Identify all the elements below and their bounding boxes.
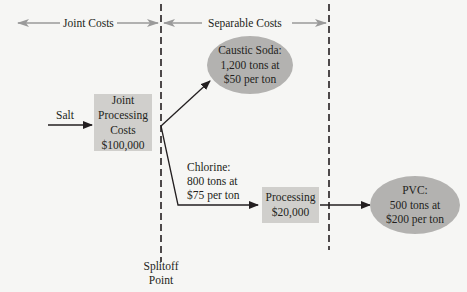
chlorine-label: Chlorine: 800 tons at $75 per ton (187, 160, 239, 202)
chlorine-line-2: 800 tons at (187, 174, 239, 188)
pvc-line-2: 500 tons at (390, 198, 440, 213)
joint-line-1: Joint (112, 93, 134, 108)
joint-processing-box: Joint Processing Costs $100,000 (94, 94, 152, 151)
pvc-line-1: PVC: (402, 183, 428, 198)
joint-line-3: Costs (110, 123, 136, 138)
caustic-soda-line-1: Caustic Soda: (218, 43, 282, 58)
caustic-soda-line-3: $50 per ton (224, 72, 276, 87)
splitoff-line-1: Splitoff (141, 259, 181, 273)
joint-line-2: Processing (98, 108, 148, 123)
joint-line-4: $100,000 (101, 138, 144, 153)
separable-costs-header: Separable Costs (205, 16, 285, 30)
pvc-line-3: $200 per ton (386, 212, 444, 227)
salt-label: Salt (56, 108, 74, 122)
caustic-soda-arrow (161, 81, 210, 126)
processing-line-2: $20,000 (272, 205, 309, 220)
splitoff-point-label: Splitoff Point (141, 259, 181, 287)
caustic-soda-ellipse: Caustic Soda: 1,200 tons at $50 per ton (207, 36, 293, 94)
chlorine-line-3: $75 per ton (187, 188, 239, 202)
chlorine-line-1: Chlorine: (187, 160, 239, 174)
processing-line-1: Processing (266, 190, 316, 205)
further-processing-box: Processing $20,000 (262, 187, 319, 223)
joint-costs-header: Joint Costs (60, 16, 117, 30)
caustic-soda-line-2: 1,200 tons at (220, 58, 279, 73)
splitoff-line-2: Point (141, 273, 181, 287)
pvc-ellipse: PVC: 500 tons at $200 per ton (370, 176, 460, 234)
